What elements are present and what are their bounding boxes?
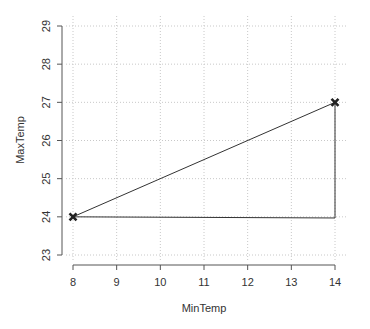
x-tick-label: 10: [154, 276, 166, 288]
x-tick-label: 11: [198, 276, 209, 288]
x-tick-label: 14: [329, 276, 341, 288]
x-tick-label: 12: [242, 276, 254, 288]
x-axis-label: MinTemp: [182, 302, 227, 314]
grid: [66, 16, 347, 261]
y-tick-label: 23: [40, 249, 52, 261]
axes: 23242526272829891011121314: [40, 20, 341, 288]
y-tick-label: 25: [40, 173, 52, 185]
y-tick-label: 27: [40, 96, 52, 108]
y-axis-label: MaxTemp: [14, 116, 26, 164]
y-tick-label: 29: [40, 20, 52, 32]
chart: 23242526272829891011121314 MinTemp MaxTe…: [0, 0, 370, 329]
y-tick-label: 28: [40, 58, 52, 70]
y-tick-label: 26: [40, 134, 52, 146]
y-tick-label: 24: [40, 211, 52, 223]
x-tick-label: 13: [285, 276, 297, 288]
x-tick-label: 8: [70, 276, 76, 288]
x-tick-label: 9: [114, 276, 120, 288]
